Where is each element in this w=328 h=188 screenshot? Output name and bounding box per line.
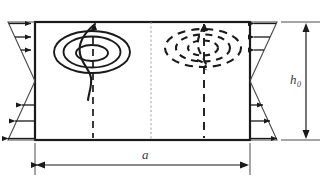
channel-cross-section (35, 22, 250, 140)
figure-root: a h 0 (0, 0, 328, 188)
box-outline (35, 22, 250, 140)
height-label: h (290, 72, 297, 87)
width-label: a (142, 147, 149, 162)
vortex-cell-diagram: a h 0 (0, 0, 328, 188)
height-label-subscript: 0 (297, 80, 301, 89)
